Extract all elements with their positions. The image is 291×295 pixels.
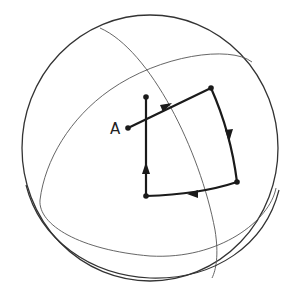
sphere-outline: [22, 15, 278, 281]
lower-rim-line: [26, 185, 279, 278]
vertex-top-right-dot: [208, 85, 214, 91]
point-a-label: A: [110, 120, 120, 138]
transport-path: [128, 88, 237, 196]
vertex-bottom-left-dot: [143, 193, 149, 199]
equator-line: [40, 54, 276, 256]
point-a-dot: [125, 125, 131, 131]
arrow-down-icon: [225, 129, 233, 142]
vertex-bottom-right-dot: [234, 179, 240, 185]
sphere-diagram: [0, 0, 291, 295]
arrow-up-icon: [142, 162, 150, 174]
arrow-icon: [142, 103, 233, 198]
vertex-top-dot: [143, 94, 149, 100]
